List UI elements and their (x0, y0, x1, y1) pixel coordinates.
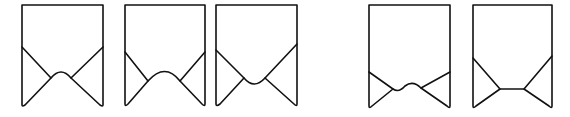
bag-shapes-diagram (0, 0, 570, 117)
shape-5-left-flap (473, 58, 500, 89)
shape-1-left-flap (22, 47, 51, 78)
shape-4-left-flap (369, 72, 393, 89)
shape-1 (22, 5, 103, 106)
shape-4 (369, 5, 450, 108)
shape-5-right-flap (524, 56, 552, 89)
shape-3-outline (216, 5, 297, 106)
shape-3-left-flap (216, 50, 244, 78)
shape-2-left-flap (125, 52, 148, 81)
shape-2-right-flap (180, 52, 205, 81)
shape-1-right-flap (71, 47, 103, 78)
shape-5 (473, 5, 552, 108)
shape-3 (216, 5, 297, 106)
shape-4-right-flap (421, 72, 450, 88)
shape-1-outline (22, 5, 103, 106)
shape-5-outline (473, 5, 552, 108)
shape-2 (125, 5, 205, 106)
shape-4-outline (369, 5, 450, 108)
shape-2-outline (125, 5, 205, 106)
shape-3-right-flap (265, 44, 297, 78)
